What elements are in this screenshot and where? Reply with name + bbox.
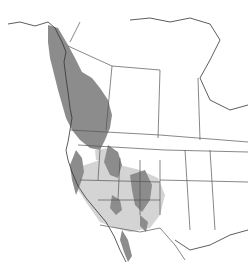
range-map [0, 0, 249, 276]
